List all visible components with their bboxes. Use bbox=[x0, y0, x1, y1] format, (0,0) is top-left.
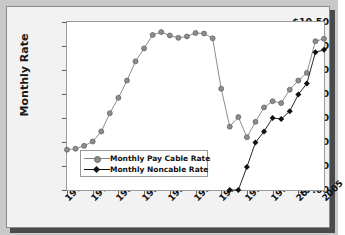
data-point-circle bbox=[262, 105, 267, 110]
diamond-marker-icon bbox=[93, 166, 100, 173]
legend-swatch-noncable bbox=[84, 165, 110, 174]
chart-series-layer bbox=[7, 7, 329, 227]
data-point-circle bbox=[287, 87, 292, 92]
data-point-circle bbox=[244, 135, 249, 140]
circle-marker-icon bbox=[94, 156, 101, 163]
data-point-circle bbox=[150, 32, 155, 37]
series-line bbox=[230, 50, 324, 190]
data-point-diamond bbox=[235, 187, 241, 193]
data-point-circle bbox=[184, 34, 189, 39]
data-point-circle bbox=[133, 59, 138, 64]
data-point-circle bbox=[279, 101, 284, 106]
chart-panel: Monthly Rate $7.00$7.50$8.00$8.50$9.00$9… bbox=[6, 6, 330, 228]
data-point-circle bbox=[304, 70, 309, 75]
legend-swatch-pay-cable bbox=[84, 154, 110, 163]
data-point-circle bbox=[219, 86, 224, 91]
data-point-circle bbox=[176, 35, 181, 40]
data-point-circle bbox=[73, 146, 78, 151]
legend-label-pay-cable: Monthly Pay Cable Rate bbox=[110, 154, 210, 163]
data-point-circle bbox=[99, 129, 104, 134]
data-point-circle bbox=[202, 31, 207, 36]
data-point-circle bbox=[253, 119, 258, 124]
chart-legend: Monthly Pay Cable Rate Monthly Noncable … bbox=[80, 150, 208, 177]
data-point-circle bbox=[142, 46, 147, 51]
data-point-circle bbox=[116, 95, 121, 100]
data-point-diamond bbox=[227, 187, 233, 193]
data-point-circle bbox=[65, 147, 70, 152]
data-point-circle bbox=[236, 115, 241, 120]
legend-item-pay-cable: Monthly Pay Cable Rate bbox=[84, 153, 204, 164]
data-point-diamond bbox=[321, 47, 327, 53]
data-point-circle bbox=[270, 99, 275, 104]
data-point-circle bbox=[82, 143, 87, 148]
data-point-circle bbox=[107, 111, 112, 116]
legend-item-noncable: Monthly Noncable Rate bbox=[84, 164, 204, 175]
data-point-circle bbox=[124, 78, 129, 83]
data-point-circle bbox=[159, 30, 164, 35]
data-point-circle bbox=[210, 36, 215, 41]
data-point-circle bbox=[167, 33, 172, 38]
legend-label-noncable: Monthly Noncable Rate bbox=[110, 165, 208, 174]
data-point-circle bbox=[193, 31, 198, 36]
data-point-circle bbox=[296, 78, 301, 83]
data-point-diamond bbox=[270, 115, 276, 121]
data-point-diamond bbox=[244, 164, 250, 170]
data-point-circle bbox=[322, 36, 327, 41]
data-point-circle bbox=[313, 39, 318, 44]
data-point-circle bbox=[227, 124, 232, 129]
series-line bbox=[67, 32, 324, 150]
series-circle bbox=[65, 30, 327, 153]
series-diamond bbox=[227, 47, 327, 193]
data-point-circle bbox=[90, 139, 95, 144]
